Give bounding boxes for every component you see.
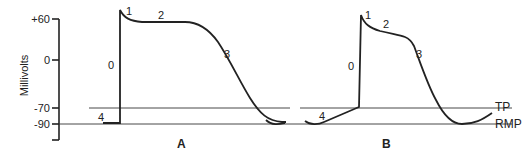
- phase-label-a-3: 3: [224, 49, 230, 60]
- rmp-label: RMP: [495, 119, 522, 130]
- y-axis: [52, 19, 59, 140]
- action-potential-curve-a: [103, 10, 286, 123]
- action-potential-diagram: [0, 0, 526, 157]
- tick-label-plus-60: +60: [10, 14, 50, 25]
- phase-label-b-0: 0: [348, 61, 354, 72]
- tick-label-minus-90: -90: [10, 119, 50, 130]
- phase-label-a-0: 0: [108, 60, 114, 71]
- phase-label-b-3: 3: [416, 49, 422, 60]
- phase-label-a-1: 1: [126, 6, 132, 17]
- phase-label-a-4: 4: [98, 112, 104, 123]
- phase-label-b-1: 1: [365, 10, 371, 21]
- panel-label-a: A: [177, 138, 186, 150]
- phase-label-b-2: 2: [383, 19, 389, 30]
- panel-label-b: B: [382, 138, 391, 150]
- tick-label-0: 0: [10, 55, 50, 66]
- tp-label: TP: [495, 102, 510, 113]
- phase-label-a-2: 2: [158, 10, 164, 21]
- tick-label-minus-70: -70: [10, 103, 50, 114]
- phase-label-b-4: 4: [319, 111, 325, 122]
